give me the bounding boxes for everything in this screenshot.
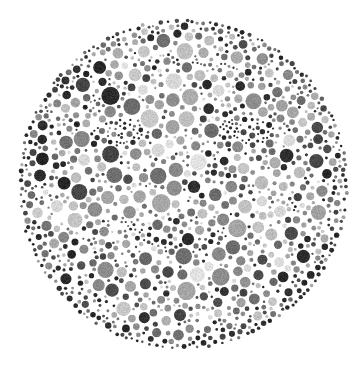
ishihara-plate-stage: Grayscale Ishihara-style dot plate A cir… xyxy=(0,0,363,366)
ishihara-plate-canvas xyxy=(0,0,363,366)
